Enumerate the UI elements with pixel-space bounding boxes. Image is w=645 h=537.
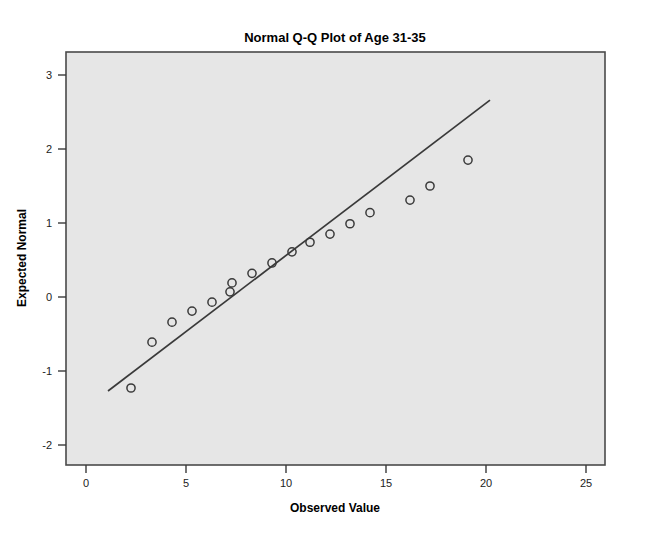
- x-axis-title: Observed Value: [290, 501, 380, 515]
- x-tick-label: 0: [83, 477, 89, 489]
- y-tick-label: 3: [46, 69, 52, 81]
- y-tick-label: 1: [46, 217, 52, 229]
- chart-title: Normal Q-Q Plot of Age 31-35: [244, 30, 426, 45]
- plot-area-background: [66, 52, 605, 465]
- x-tick-label: 20: [480, 477, 492, 489]
- x-tick-label: 5: [183, 477, 189, 489]
- y-tick-label: 2: [46, 143, 52, 155]
- y-tick-label: -2: [42, 439, 52, 451]
- y-axis-title: Expected Normal: [15, 209, 29, 307]
- qq-plot-canvas: Normal Q-Q Plot of Age 31-35 0510152025 …: [0, 0, 645, 537]
- x-tick-label: 25: [580, 477, 592, 489]
- x-tick-label: 10: [280, 477, 292, 489]
- qq-plot-figure: Normal Q-Q Plot of Age 31-35 0510152025 …: [0, 0, 645, 537]
- y-tick-label: 0: [46, 291, 52, 303]
- x-tick-label: 15: [380, 477, 392, 489]
- y-tick-label: -1: [42, 365, 52, 377]
